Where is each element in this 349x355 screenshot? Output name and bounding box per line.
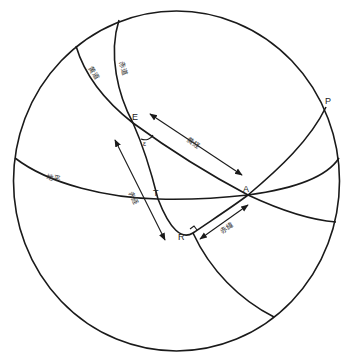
point-A-label: A bbox=[243, 184, 249, 194]
declination-label: 赤緯 bbox=[218, 221, 235, 236]
hour-circle-through-P bbox=[193, 107, 326, 233]
celestial-sphere-diagram: E A T R P ε 黄道 赤道 地平 黄経 赤経 赤緯 bbox=[0, 0, 349, 355]
ecliptic-longitude-label: 黄経 bbox=[185, 135, 202, 150]
ecliptic-label: 黄道 bbox=[86, 65, 101, 82]
right-angle-mark bbox=[190, 226, 197, 230]
horizon-circle bbox=[15, 158, 339, 199]
point-P-label: P bbox=[325, 96, 331, 106]
celestial-sphere-outline bbox=[14, 11, 340, 351]
point-E-label: E bbox=[132, 112, 138, 122]
point-T-label: T bbox=[153, 188, 159, 198]
equator-label: 赤道 bbox=[117, 60, 129, 76]
equator-circle bbox=[114, 20, 274, 317]
horizon-label: 地平 bbox=[46, 172, 62, 184]
point-R-label: R bbox=[178, 232, 185, 242]
epsilon-label: ε bbox=[143, 140, 146, 147]
